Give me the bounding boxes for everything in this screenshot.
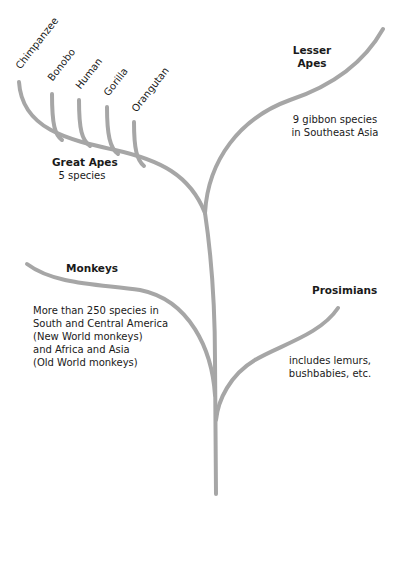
lesser-apes-title-line2: Apes	[290, 57, 334, 70]
monkeys-desc-line2: South and Central America	[33, 317, 168, 330]
human-branch	[79, 100, 90, 146]
monkeys-title: Monkeys	[66, 262, 118, 275]
prosimians-desc-line2: bushbabies, etc.	[285, 367, 375, 380]
great-apes-desc: 5 species	[52, 169, 112, 182]
monkeys-desc-line1: More than 250 species in	[33, 304, 159, 317]
monkeys-desc-line5: (Old World monkeys)	[33, 356, 138, 369]
great-apes-title: Great Apes	[52, 156, 112, 169]
monkeys-desc-line3: (New World monkeys)	[33, 330, 143, 343]
monkeys-desc-line4: and Africa and Asia	[33, 343, 130, 356]
lesser-apes-desc-line1: 9 gibbon species	[290, 113, 380, 126]
prosimians-title: Prosimians	[312, 284, 377, 297]
lesser-apes-title-line1: Lesser	[290, 44, 334, 57]
prosimians-desc-line1: includes lemurs,	[285, 354, 375, 367]
lesser-apes-desc-line2: in Southeast Asia	[290, 126, 380, 139]
